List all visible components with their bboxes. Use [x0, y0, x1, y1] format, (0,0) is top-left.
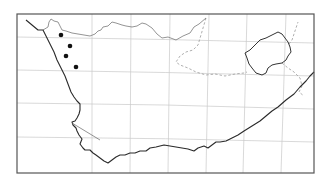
longitude-line — [243, 14, 247, 173]
latitude-line — [17, 137, 314, 142]
occurrence-dot — [68, 44, 73, 49]
national-border — [43, 18, 206, 40]
occurrence-dot — [74, 65, 79, 70]
province-boundary — [289, 22, 298, 44]
province-boundary — [176, 18, 247, 76]
latitude-line — [17, 70, 314, 76]
longitude-line — [130, 14, 131, 173]
latitude-line — [17, 103, 314, 109]
graticule — [17, 14, 314, 173]
map-canvas — [0, 0, 332, 182]
distribution-map — [0, 0, 332, 182]
occurrence-dot — [59, 33, 64, 38]
latitude-line — [17, 37, 314, 43]
province-boundary — [282, 63, 304, 96]
longitude-line — [206, 14, 209, 173]
occurrence-dot — [64, 54, 69, 59]
